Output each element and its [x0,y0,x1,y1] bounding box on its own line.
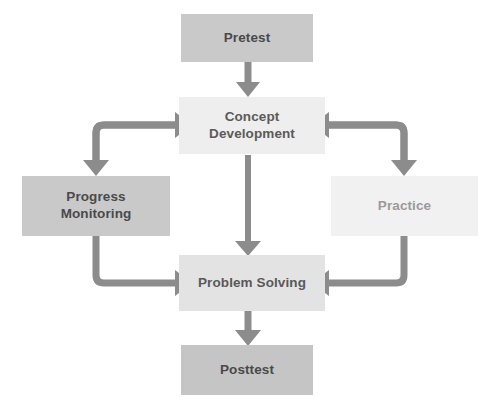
node-posttest-label: Posttest [220,362,274,379]
connector-practice-to-problem [312,236,404,296]
connector-progress-to-concept [96,112,192,160]
node-pretest-label: Pretest [224,30,270,47]
node-practice: Practice [331,176,478,236]
connector-problem-to-posttest [235,311,261,346]
connector-concept-to-problem [235,155,261,256]
flowchart-diagram: Pretest Concept Development Progress Mon… [0,0,494,410]
connector-practice-to-concept [312,112,404,160]
connector-pretest-to-concept [236,62,260,97]
node-progress-monitoring: Progress Monitoring [22,176,170,236]
node-practice-label: Practice [378,198,431,215]
connector-progress-to-problem [96,236,192,296]
node-progress-monitoring-label: Progress Monitoring [61,189,132,223]
node-problem-solving: Problem Solving [179,255,325,311]
node-concept-development: Concept Development [179,97,325,154]
node-problem-solving-label: Problem Solving [198,275,306,292]
node-pretest: Pretest [181,14,313,62]
node-posttest: Posttest [181,345,313,395]
node-concept-development-label: Concept Development [209,109,295,143]
